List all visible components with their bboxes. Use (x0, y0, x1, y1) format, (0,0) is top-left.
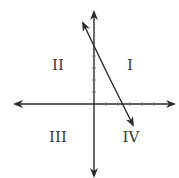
coordinate-plane: II I III IV (0, 0, 179, 178)
quadrant-label-3: III (49, 128, 67, 146)
quadrant-label-1: I (127, 56, 133, 74)
quadrant-label-2: II (52, 56, 64, 74)
negative-slope-line (83, 23, 133, 125)
y-axis (92, 12, 96, 176)
quadrant-label-4: IV (123, 128, 141, 146)
